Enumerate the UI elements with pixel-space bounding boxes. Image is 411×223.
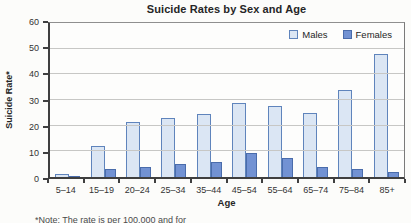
x-axis-title: Age	[48, 197, 405, 208]
females-bar-25–34	[175, 164, 186, 177]
x-tick-mark-1	[83, 179, 85, 183]
y-tick-mark-50	[43, 47, 48, 49]
x-tick-mark-9	[368, 179, 370, 183]
x-label-65–74: 65–74	[298, 185, 334, 195]
x-tick-mark-2	[118, 179, 120, 183]
y-tick-label-60: 60	[29, 18, 39, 27]
x-tick-mark-7	[297, 179, 299, 183]
legend-males-label: Males	[302, 29, 327, 40]
legend-item-males: Males	[289, 29, 327, 40]
gridline-50	[50, 48, 404, 49]
legend-item-females: Females	[343, 29, 392, 40]
x-label-45–54: 45–54	[227, 185, 263, 195]
x-label-5–14: 5–14	[48, 185, 84, 195]
y-tick-label-0: 0	[34, 175, 39, 184]
x-label-15–19: 15–19	[84, 185, 120, 195]
x-tick-mark-6	[261, 179, 263, 183]
x-label-35–44: 35–44	[191, 185, 227, 195]
chart-title: Suicide Rates by Sex and Age	[48, 3, 405, 15]
males-bar-45–54	[232, 103, 246, 177]
females-bar-20–24	[140, 167, 151, 177]
suicide-rates-chart: Suicide Rates by Sex and Age Suicide Rat…	[0, 0, 411, 223]
bar-group-65–74	[298, 23, 333, 177]
bar-group-75–84	[333, 23, 368, 177]
males-bar-35–44	[197, 114, 211, 177]
footnote: *Note: The rate is per 100,000 and for	[35, 215, 186, 223]
females-bar-35–44	[211, 162, 222, 177]
x-label-20–24: 20–24	[119, 185, 155, 195]
y-tick-mark-40	[43, 73, 48, 75]
y-tick-label-20: 20	[29, 122, 39, 131]
females-swatch-icon	[343, 30, 352, 39]
y-tick-label-30: 30	[29, 96, 39, 105]
males-bar-25–34	[161, 118, 175, 177]
y-tick-mark-10	[43, 152, 48, 154]
gridline-10	[50, 150, 404, 151]
x-tick-mark-3	[154, 179, 156, 183]
males-swatch-icon	[289, 30, 298, 39]
bar-group-5–14	[50, 23, 85, 177]
y-tick-label-10: 10	[29, 148, 39, 157]
males-bar-75–84	[338, 90, 352, 177]
females-bar-15–19	[105, 169, 116, 177]
bar-group-85+	[369, 23, 404, 177]
x-tick-mark-0	[47, 179, 49, 183]
females-bar-45–54	[246, 153, 257, 177]
males-bar-55–64	[268, 106, 282, 177]
males-bar-85+	[374, 54, 388, 177]
x-axis-labels: 5–1415–1920–2425–3435–4445–5455–6465–747…	[48, 185, 405, 195]
females-bar-5–14	[69, 176, 80, 177]
y-tick-label-50: 50	[29, 44, 39, 53]
gridline-40	[50, 73, 404, 74]
legend-females-label: Females	[356, 29, 392, 40]
gridline-30	[50, 99, 404, 100]
females-bar-55–64	[282, 158, 293, 177]
x-tick-mark-8	[333, 179, 335, 183]
bar-group-35–44	[192, 23, 227, 177]
x-tick-mark-4	[190, 179, 192, 183]
bar-group-25–34	[156, 23, 191, 177]
bar-group-55–64	[262, 23, 297, 177]
females-bar-65–74	[317, 167, 328, 177]
females-bar-75–84	[352, 169, 363, 177]
x-axis-ticks	[48, 179, 405, 184]
y-tick-mark-20	[43, 126, 48, 128]
bar-groups	[50, 23, 404, 177]
y-axis: 0102030405060	[0, 22, 48, 179]
y-tick-mark-60	[43, 21, 48, 23]
males-bar-65–74	[303, 113, 317, 177]
x-label-55–64: 55–64	[262, 185, 298, 195]
x-tick-mark-5	[226, 179, 228, 183]
bar-group-20–24	[121, 23, 156, 177]
y-tick-mark-30	[43, 100, 48, 102]
bar-group-15–19	[85, 23, 120, 177]
plot-area: Males Females	[48, 22, 405, 179]
males-bar-5–14	[55, 174, 69, 177]
bar-group-45–54	[227, 23, 262, 177]
x-label-85+: 85+	[369, 185, 405, 195]
x-tick-mark-10	[404, 179, 406, 183]
legend: Males Females	[289, 29, 392, 40]
x-label-25–34: 25–34	[155, 185, 191, 195]
x-label-75–84: 75–84	[334, 185, 370, 195]
gridline-20	[50, 125, 404, 126]
y-tick-label-40: 40	[29, 70, 39, 79]
females-bar-85+	[388, 172, 399, 177]
